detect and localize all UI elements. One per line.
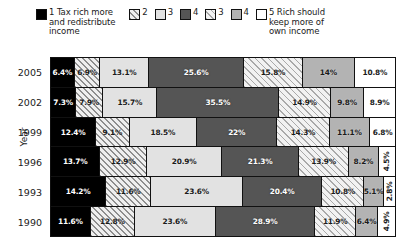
legend-label: 2 — [142, 8, 147, 18]
y-axis-tick: 1999 — [0, 117, 47, 147]
bar-segment: 4.5% — [379, 147, 395, 176]
bar-segment: 13.9% — [299, 147, 349, 176]
bar-segment-label: 8.2% — [354, 157, 374, 166]
stacked-bar-chart: 1 Tax rich more and redistribute income2… — [0, 0, 403, 242]
y-axis-tick: 1996 — [0, 147, 47, 177]
bar-segment: 10.8% — [322, 177, 364, 206]
bar-segment: 4.9% — [378, 207, 395, 236]
legend-label: 4 — [193, 8, 198, 18]
legend-entry: 4 — [180, 8, 198, 20]
bar-segment-label: 7.3% — [53, 98, 73, 107]
bar-segment-label: 7.9% — [79, 98, 99, 107]
bar-segment-label: 13.9% — [311, 157, 336, 166]
bar-row: 13.7%12.9%20.9%21.3%13.9%8.2%4.5% — [51, 146, 395, 176]
bar-row: 14.2%11.6%23.6%20.4%10.8%5.1%2.8% — [51, 176, 395, 206]
y-axis-tick: 2005 — [0, 57, 47, 87]
bar-segment: 9.8% — [331, 88, 365, 117]
bar-segment: 25.6% — [149, 58, 244, 87]
bar-segment-label: 14.2% — [66, 187, 91, 196]
bar-segment-label: 28.9% — [253, 217, 278, 226]
bar-segment: 20.9% — [147, 147, 222, 176]
bar-segment-label: 18.5% — [150, 128, 175, 137]
bar-segment-label: 35.5% — [206, 98, 231, 107]
bar-segment: 9.1% — [96, 118, 129, 147]
bar-segment-label: 13.7% — [63, 157, 88, 166]
legend-label: 1 Tax rich more and redistribute income — [49, 8, 115, 37]
plot-area: 6.4%6.9%13.1%25.6%15.8%14%10.8%7.3%7.9%1… — [50, 57, 396, 237]
bar-segment: 14.3% — [277, 118, 329, 147]
bar-segment-label: 6.4% — [53, 68, 73, 77]
bar-segment-label: 4.9% — [382, 212, 391, 232]
bar-segment: 12.8% — [91, 207, 135, 236]
bar-segment-label: 2.8% — [385, 182, 394, 202]
legend-entry: 1 Tax rich more and redistribute income — [36, 8, 115, 37]
bar-segment: 12.9% — [100, 147, 147, 176]
bar-segment: 22% — [197, 118, 277, 147]
bar-segment: 2.8% — [384, 177, 395, 206]
bar-segment: 23.6% — [151, 177, 243, 206]
bar-segment-label: 14.9% — [292, 98, 317, 107]
bar-segment: 8.2% — [349, 147, 379, 176]
bar-segment: 14.9% — [279, 88, 330, 117]
legend-swatch-icon — [205, 9, 216, 20]
bar-segment: 20.4% — [243, 177, 322, 206]
bar-segment: 11.9% — [315, 207, 356, 236]
bar-segment-label: 11.9% — [323, 217, 348, 226]
bar-segment-label: 6.9% — [77, 68, 97, 77]
bar-segment-label: 5.1% — [364, 187, 383, 196]
bar-row: 11.6%12.8%23.6%28.9%11.9%6.4%4.9% — [51, 206, 395, 236]
bar-segment-label: 9.8% — [337, 98, 357, 107]
bar-segment-label: 12.9% — [111, 157, 136, 166]
bar-segment-label: 6.4% — [357, 217, 377, 226]
bar-segment-label: 11.6% — [116, 187, 141, 196]
y-axis-tick-labels: 200520021999199619931990 — [0, 57, 47, 237]
legend-label: 3 — [218, 8, 223, 18]
bar-row: 7.3%7.9%15.7%35.5%14.9%9.8%8.9% — [51, 87, 395, 117]
bar-segment: 10.8% — [355, 58, 395, 87]
bar-segment-label: 22% — [228, 128, 245, 137]
legend-entry: 5 Rich should keep more of own income — [256, 8, 325, 37]
bar-segment: 14.2% — [51, 177, 106, 206]
bar-segment-label: 21.3% — [248, 157, 273, 166]
bar-segment-label: 11.1% — [337, 128, 362, 137]
y-axis-tick: 1990 — [0, 207, 47, 237]
legend-entry: 4 — [231, 8, 249, 20]
bar-row: 6.4%6.9%13.1%25.6%15.8%14%10.8% — [51, 58, 395, 87]
legend-swatch-icon — [129, 9, 140, 20]
legend-swatch-icon — [36, 9, 47, 20]
bar-segment-label: 15.7% — [117, 98, 142, 107]
bar-segment-label: 20.9% — [172, 157, 197, 166]
legend-entry: 3 — [205, 8, 223, 20]
bar-segment: 7.9% — [76, 88, 103, 117]
bar-segment-label: 10.8% — [330, 187, 355, 196]
bar-segment: 35.5% — [157, 88, 279, 117]
bar-segment: 11.1% — [330, 118, 371, 147]
bar-segment-label: 23.6% — [163, 217, 188, 226]
y-axis-tick: 1993 — [0, 177, 47, 207]
bar-segment-label: 15.8% — [261, 68, 286, 77]
bar-segment: 11.6% — [51, 207, 91, 236]
bar-segment: 6.9% — [75, 58, 101, 87]
bar-segment: 13.1% — [100, 58, 149, 87]
bar-segment: 15.8% — [244, 58, 303, 87]
legend-entry: 3 — [155, 8, 173, 20]
legend-swatch-icon — [180, 9, 191, 20]
chart-legend: 1 Tax rich more and redistribute income2… — [36, 8, 398, 54]
bar-segment: 15.7% — [103, 88, 157, 117]
bar-segment-label: 11.6% — [58, 217, 83, 226]
legend-swatch-icon — [155, 9, 166, 20]
legend-label: 4 — [244, 8, 249, 18]
bar-segment: 23.6% — [135, 207, 216, 236]
bar-segment-label: 23.6% — [184, 187, 209, 196]
bar-segment: 18.5% — [130, 118, 198, 147]
bar-segment: 5.1% — [364, 177, 384, 206]
bar-segment: 21.3% — [222, 147, 299, 176]
bar-row: 12.4%9.1%18.5%22%14.3%11.1%6.8% — [51, 117, 395, 147]
bar-segment-label: 8.9% — [370, 98, 390, 107]
bar-segment-label: 6.8% — [373, 128, 393, 137]
legend-entry: 2 — [129, 8, 147, 20]
bar-segment-label: 12.4% — [61, 128, 86, 137]
bar-segment-label: 4.5% — [382, 152, 391, 172]
bar-segment-label: 14% — [320, 68, 337, 77]
bar-segment: 11.6% — [106, 177, 151, 206]
